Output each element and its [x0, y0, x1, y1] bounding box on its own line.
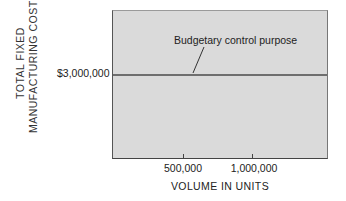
y-axis-label-line2: MANUFACTURING COSTS — [27, 0, 40, 133]
x-tick-label-500000: 500,000 — [164, 162, 202, 174]
y-axis-label-line1: TOTAL FIXED — [14, 0, 27, 133]
y-axis-label: TOTAL FIXED MANUFACTURING COSTS — [14, 0, 40, 133]
x-tick-mark-500000 — [183, 154, 184, 159]
plot-area: Budgetary control purpose — [112, 10, 328, 159]
fixed-cost-line — [113, 74, 327, 76]
y-tick-label-3000000: $3,000,000 — [57, 67, 110, 79]
annotation-label: Budgetary control purpose — [174, 34, 297, 46]
x-tick-mark-1000000 — [252, 154, 253, 159]
x-axis-label: VOLUME IN UNITS — [171, 180, 269, 192]
x-tick-label-1000000: 1,000,000 — [231, 162, 278, 174]
